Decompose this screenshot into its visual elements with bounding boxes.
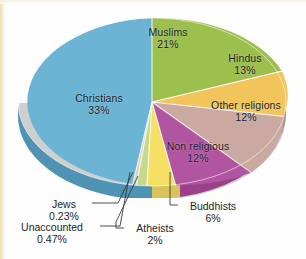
- slice-label-christians-name: Christians: [75, 92, 123, 104]
- slice-label-christians-pct: 33%: [52, 104, 146, 116]
- callout-label-jews: Jews 0.23%: [36, 198, 92, 222]
- callout-label-buddhists-name: Buddhists: [190, 200, 236, 212]
- callout-label-unaccounted: Unaccounted 0.47%: [4, 221, 100, 245]
- chart-canvas: Muslims 21% Hindus 13% Other religions 1…: [0, 0, 306, 259]
- slice-label-non-religious-name: Non religious: [167, 140, 230, 152]
- callout-label-buddhists-pct: 6%: [205, 212, 220, 224]
- slice-label-muslims-name: Muslims: [148, 26, 187, 38]
- callout-label-buddhists: Buddhists 6%: [178, 200, 248, 224]
- slice-label-other-religions-name: Other religions: [211, 99, 281, 111]
- callout-label-atheists: Atheists 2%: [124, 222, 186, 246]
- slice-label-other-religions-pct: 12%: [194, 111, 298, 123]
- slice-label-muslims-pct: 21%: [128, 38, 208, 50]
- slice-label-hindus-pct: 13%: [210, 64, 280, 76]
- callout-label-atheists-name: Atheists: [136, 222, 173, 234]
- callout-label-unaccounted-pct: 0.47%: [37, 233, 67, 245]
- slice-label-hindus: Hindus 13%: [210, 52, 280, 76]
- slice-label-hindus-name: Hindus: [228, 52, 261, 64]
- slice-label-christians: Christians 33%: [52, 92, 146, 116]
- callout-label-unaccounted-name: Unaccounted: [21, 221, 83, 233]
- callout-label-jews-name: Jews: [52, 198, 76, 210]
- slice-label-non-religious-pct: 12%: [152, 152, 244, 164]
- callout-label-atheists-pct: 2%: [147, 234, 162, 246]
- slice-label-non-religious: Non religious 12%: [152, 140, 244, 164]
- slice-label-other-religions: Other religions 12%: [194, 99, 298, 123]
- slice-label-muslims: Muslims 21%: [128, 26, 208, 50]
